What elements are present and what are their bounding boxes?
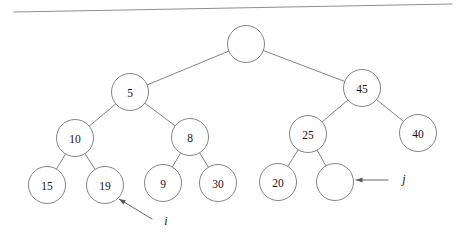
tree-node-n5[interactable]: 5 [112,74,149,111]
horizontal-rule [14,4,452,12]
tree-node-n19[interactable]: 19 [87,167,124,204]
binary-tree-figure: ij 5451082540151993020 [0,0,464,241]
tree-edge-n5-to-n10 [89,104,116,126]
tree-node-n9[interactable]: 9 [145,165,182,202]
tree-node-layer: 5451082540151993020 [29,26,437,204]
node-circle-nempty[interactable] [317,164,354,201]
tree-node-n30[interactable]: 30 [200,165,237,202]
tree-node-n40[interactable]: 40 [400,115,437,152]
tree-edge-n8-to-n30 [200,153,209,167]
node-label-n30: 30 [212,178,224,190]
tree-edge-root-to-n5 [147,51,229,85]
node-label-n8: 8 [187,132,193,144]
node-label-n15: 15 [41,180,53,192]
tree-edge-root-to-n45 [263,51,344,82]
node-label-n40: 40 [412,128,424,140]
tree-node-n15[interactable]: 15 [29,167,66,204]
node-label-n25: 25 [302,129,314,141]
tree-node-n10[interactable]: 10 [57,120,94,157]
tree-node-n25[interactable]: 25 [290,116,327,153]
node-circle-root[interactable] [228,26,265,63]
node-label-n9: 9 [160,178,166,190]
node-label-n45: 45 [356,83,368,95]
tree-edge-n45-to-n40 [376,100,403,122]
ptr-i-arrowhead [119,199,126,204]
node-label-n5: 5 [127,87,133,99]
tree-edge-n25-to-n20 [288,150,298,167]
tree-edge-n10-to-n15 [56,154,65,169]
tree-edge-n25-to-nempty [317,150,326,166]
tree-node-nempty[interactable] [317,164,354,201]
tree-node-root[interactable] [228,26,265,63]
ptr-j: j [356,172,406,186]
tree-edge-n10-to-n19 [85,154,95,170]
top-rule-layer [14,4,452,12]
node-label-n19: 19 [99,180,111,192]
ptr-j-label: j [400,172,406,186]
tree-node-n8[interactable]: 8 [172,119,209,156]
tree-edge-n8-to-n9 [172,153,180,167]
ptr-i-label: i [164,214,167,228]
tree-edge-n45-to-n25 [322,100,348,122]
ptr-j-arrowhead [356,178,363,183]
ptr-i: i [119,199,168,228]
tree-edge-layer [56,51,403,170]
tree-edge-n5-to-n8 [145,103,175,126]
tree-diagram-canvas: ij 5451082540151993020 [0,0,464,241]
tree-node-n20[interactable]: 20 [260,164,297,201]
node-label-n10: 10 [69,133,81,145]
node-label-n20: 20 [272,177,284,189]
tree-node-n45[interactable]: 45 [344,70,381,107]
